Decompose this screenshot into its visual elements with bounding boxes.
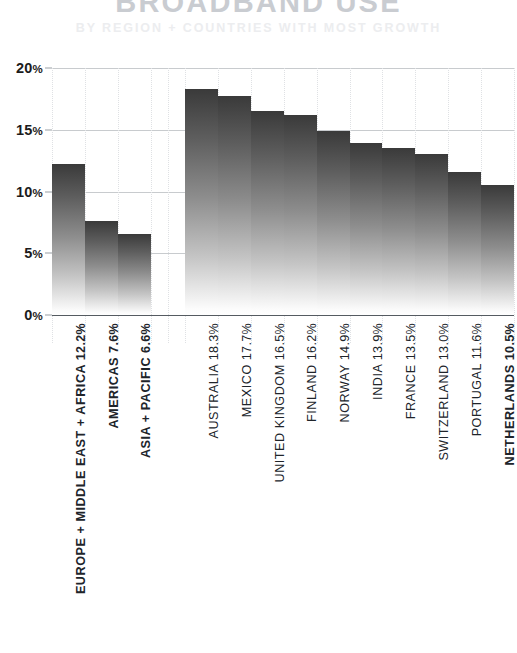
bar <box>382 148 415 315</box>
bar <box>317 131 350 315</box>
y-axis-tick-label: 5% <box>24 245 43 261</box>
gridline-vertical <box>168 68 170 343</box>
chart-figure: BROADBAND USE BY REGION + COUNTRIES WITH… <box>0 0 517 653</box>
chart-subtitle: BY REGION + COUNTRIES WITH MOST GROWTH <box>76 21 441 35</box>
y-tick-mark <box>45 129 52 130</box>
x-label-value: 13.5% <box>404 323 418 360</box>
x-label-value: 16.2% <box>305 323 319 360</box>
y-axis-tick-label: 20% <box>16 60 43 76</box>
x-axis-label: AUSTRALIA 18.3% <box>207 323 221 439</box>
gridline-vertical <box>514 68 516 343</box>
bar <box>284 115 317 315</box>
x-label-name: FRANCE <box>404 360 418 419</box>
y-axis-tick-label: 10% <box>16 184 43 200</box>
x-axis-label: UNITED KINGDOM 16.5% <box>273 323 287 483</box>
x-label-name: ASIA + PACIFIC <box>139 353 153 458</box>
bar <box>415 154 448 315</box>
x-label-value: 13.9% <box>371 323 385 360</box>
x-axis-label: ASIA + PACIFIC 6.6% <box>139 323 153 458</box>
x-axis-label: INDIA 13.9% <box>371 323 385 400</box>
axis-baseline <box>52 315 514 316</box>
x-axis-label: SWITZERLAND 13.0% <box>437 323 451 461</box>
chart-title: BROADBAND USE <box>115 0 401 19</box>
x-label-value: 10.5% <box>503 323 517 360</box>
x-axis-label: NORWAY 14.9% <box>338 323 352 422</box>
bar <box>251 111 284 315</box>
y-tick-mark <box>45 253 52 254</box>
x-axis-label: FRANCE 13.5% <box>404 323 418 419</box>
x-label-name: NETHERLANDS <box>503 360 517 465</box>
x-label-value: 13.0% <box>437 323 451 360</box>
x-label-value: 17.7% <box>240 323 254 360</box>
x-label-name: EUROPE + MIDDLE EAST + AFRICA <box>74 360 88 594</box>
x-label-value: 16.5% <box>273 323 287 360</box>
bar <box>218 96 251 315</box>
x-label-name: UNITED KINGDOM <box>273 360 287 482</box>
y-tick-mark <box>45 191 52 192</box>
x-label-name: AUSTRALIA <box>207 360 221 438</box>
y-axis-tick-label: 15% <box>16 122 43 138</box>
x-label-value: 12.2% <box>74 323 88 360</box>
bar <box>118 234 151 316</box>
x-label-value: 7.6% <box>107 323 121 353</box>
x-label-name: NORWAY <box>338 360 352 422</box>
plot-area: 20%15%10%5%0%EUROPE + MIDDLE EAST + AFRI… <box>52 68 514 315</box>
x-axis-label: EUROPE + MIDDLE EAST + AFRICA 12.2% <box>74 323 88 594</box>
gridline-vertical <box>151 68 153 343</box>
gridline-horizontal <box>52 68 514 69</box>
x-label-name: SWITZERLAND <box>437 360 451 460</box>
x-axis-label: MEXICO 17.7% <box>240 323 254 417</box>
x-label-name: FINLAND <box>305 360 319 422</box>
bar <box>185 89 218 315</box>
x-label-value: 11.6% <box>470 323 484 359</box>
x-label-name: AMERICAS <box>107 353 121 429</box>
bar <box>85 221 118 315</box>
bar <box>350 143 383 315</box>
x-label-value: 14.9% <box>338 323 352 360</box>
bar <box>448 172 481 315</box>
x-label-name: PORTUGAL <box>470 359 484 436</box>
x-axis-label: AMERICAS 7.6% <box>107 323 121 429</box>
bar <box>52 164 85 315</box>
y-tick-mark <box>45 315 52 316</box>
x-label-name: MEXICO <box>240 360 254 417</box>
x-axis-label: FINLAND 16.2% <box>305 323 319 422</box>
x-axis-label: PORTUGAL 11.6% <box>470 323 484 436</box>
x-label-name: INDIA <box>371 360 385 400</box>
x-label-value: 18.3% <box>207 323 221 360</box>
bar <box>481 185 514 315</box>
x-axis-label: NETHERLANDS 10.5% <box>503 323 517 465</box>
y-tick-mark <box>45 68 52 69</box>
y-axis-tick-label: 0% <box>24 307 43 323</box>
x-label-value: 6.6% <box>139 323 153 353</box>
